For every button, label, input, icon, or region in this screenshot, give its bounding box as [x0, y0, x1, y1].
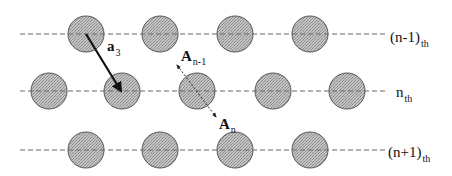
a3-vector [86, 34, 121, 91]
row-n [20, 73, 388, 109]
A-n-label: An [219, 116, 236, 135]
row-n-plus-1 [20, 132, 386, 168]
A-n-minus-1-label: An-1 [181, 48, 206, 67]
lattice-diagram: (n-1)thnth(n+1)tha3An-1An [0, 0, 452, 176]
layer-label: (n-1)th [390, 29, 429, 49]
row-n-minus-1 [20, 16, 386, 52]
a3-label: a3 [107, 38, 121, 58]
layer-label: (n+1)th [388, 144, 430, 164]
layer-label: nth [396, 84, 412, 104]
lattice-rows [20, 16, 388, 168]
